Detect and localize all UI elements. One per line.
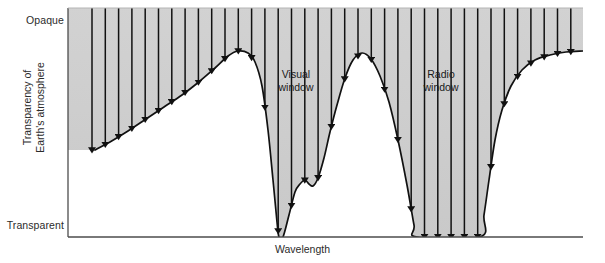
plot-canvas — [0, 0, 605, 263]
radio-window-label-line1: Radio — [410, 68, 472, 81]
radio-window-label: Radio window — [410, 68, 472, 93]
y-axis-title-line1: Transparency of — [21, 43, 34, 173]
radio-window-label-line2: window — [410, 81, 472, 94]
y-axis-title: Transparency of Earth's atmosphere — [21, 43, 46, 173]
atmospheric-transparency-diagram: Opaque Transparent Transparency of Earth… — [0, 0, 605, 263]
visual-window-label-line2: window — [265, 81, 327, 94]
visual-window-label-line1: Visual — [265, 68, 327, 81]
y-axis-top-label: Opaque — [26, 14, 64, 26]
y-axis-bottom-label: Transparent — [7, 219, 64, 231]
visual-window-label: Visual window — [265, 68, 327, 93]
y-axis-title-line2: Earth's atmosphere — [33, 43, 46, 173]
x-axis-title: Wavelength — [0, 243, 605, 255]
